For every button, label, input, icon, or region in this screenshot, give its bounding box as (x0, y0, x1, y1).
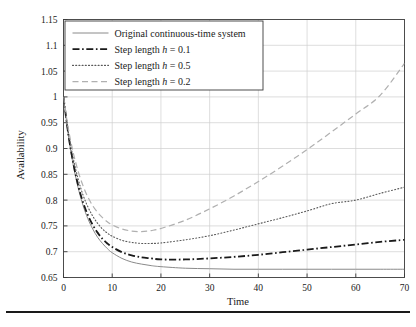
legend-label-2: Step length h = 0.5 (115, 60, 191, 71)
availability-vs-time-chart: 0.650.70.750.80.850.90.9511.051.11.15 01… (0, 0, 416, 327)
y-axis-title: Availability (15, 130, 26, 180)
legend-label-0: Original continuous-time system (115, 28, 246, 39)
chart-legend: Original continuous-time systemStep leng… (65, 21, 263, 90)
y-tick-label: 0.95 (41, 118, 58, 128)
footer-divider (6, 311, 410, 313)
y-tick-label: 1.15 (41, 15, 58, 25)
y-tick-label: 0.85 (41, 170, 58, 180)
y-tick-label: 0.8 (46, 196, 58, 206)
legend-label-3: Step length h = 0.2 (115, 76, 191, 87)
figure-container: 0.650.70.750.80.850.90.9511.051.11.15 01… (0, 0, 416, 327)
x-tick-label: 60 (351, 283, 361, 293)
x-tick-label: 10 (107, 283, 117, 293)
legend-label-1: Step length h = 0.1 (115, 44, 191, 55)
y-tick-label: 1.05 (41, 67, 58, 77)
x-tick-label: 40 (254, 283, 264, 293)
y-tick-label: 0.9 (46, 144, 58, 154)
y-tick-label: 0.7 (46, 247, 58, 257)
x-tick-label: 70 (400, 283, 410, 293)
y-tick-label: 0.65 (41, 273, 58, 283)
x-tick-label: 30 (205, 283, 215, 293)
x-axis-title: Time (227, 296, 249, 307)
x-tick-label: 20 (156, 283, 166, 293)
y-tick-label: 1.1 (46, 41, 58, 51)
x-tick-label: 0 (61, 283, 66, 293)
x-tick-label: 50 (302, 283, 312, 293)
y-tick-label: 0.75 (41, 221, 58, 231)
y-tick-label: 1 (53, 92, 58, 102)
